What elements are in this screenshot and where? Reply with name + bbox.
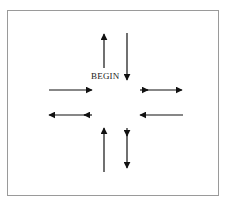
arrow-diagram bbox=[0, 0, 232, 210]
begin-label: BEGIN bbox=[91, 71, 120, 81]
